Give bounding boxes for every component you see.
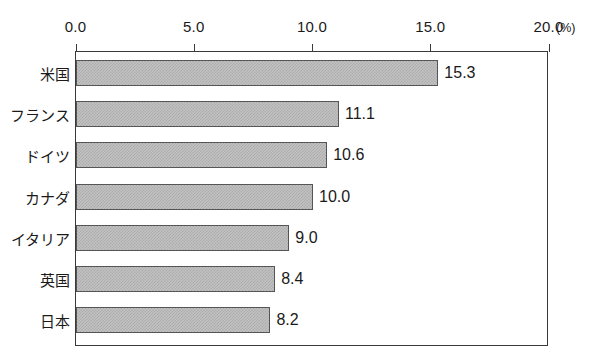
bar-value-label: 9.0: [295, 229, 317, 247]
bar-category-label: 英国: [40, 269, 70, 290]
bar-row: イタリア9.0: [0, 218, 597, 258]
bar-value-label: 8.4: [281, 270, 303, 288]
x-axis-tick: [312, 44, 313, 52]
x-axis-tick: [194, 44, 195, 52]
bar-value-label: 10.0: [319, 188, 350, 206]
bar-row: 日本8.2: [0, 300, 597, 340]
bar-category-label: イタリア: [11, 227, 70, 248]
x-axis-tick-label: 15.0: [415, 18, 445, 35]
bar-row: カナダ10.0: [0, 177, 597, 217]
bar-category-label: 米国: [40, 63, 70, 84]
bar-row: フランス11.1: [0, 94, 597, 134]
bar: [76, 142, 327, 168]
axis-unit-label: (%): [556, 21, 575, 35]
x-axis-tick-label: 10.0: [297, 18, 327, 35]
bar: [76, 307, 270, 333]
x-axis-tick: [430, 44, 431, 52]
bar: [76, 225, 289, 251]
bar: [76, 60, 438, 86]
x-axis-tick-label: 5.0: [183, 18, 204, 35]
bar-value-label: 15.3: [444, 64, 475, 82]
bar-value-label: 11.1: [345, 105, 375, 123]
bar-row: 英国8.4: [0, 259, 597, 299]
bar-category-label: 日本: [40, 310, 70, 331]
bar-category-label: ドイツ: [25, 145, 70, 166]
bar-category-label: フランス: [10, 104, 70, 125]
bar-row: ドイツ10.6: [0, 135, 597, 175]
bar-chart: 0.05.010.015.020.0 (%) 米国15.3フランス11.1ドイツ…: [0, 0, 597, 360]
x-axis-tick: [76, 44, 77, 52]
bar: [76, 101, 339, 127]
bar-category-label: カナダ: [25, 186, 70, 207]
x-axis-tick: [549, 44, 550, 52]
bar-value-label: 10.6: [333, 146, 364, 164]
bar-value-label: 8.2: [276, 311, 298, 329]
bar: [76, 266, 275, 292]
x-axis-tick-label: 0.0: [65, 18, 86, 35]
bar-row: 米国15.3: [0, 53, 597, 93]
bar: [76, 184, 313, 210]
